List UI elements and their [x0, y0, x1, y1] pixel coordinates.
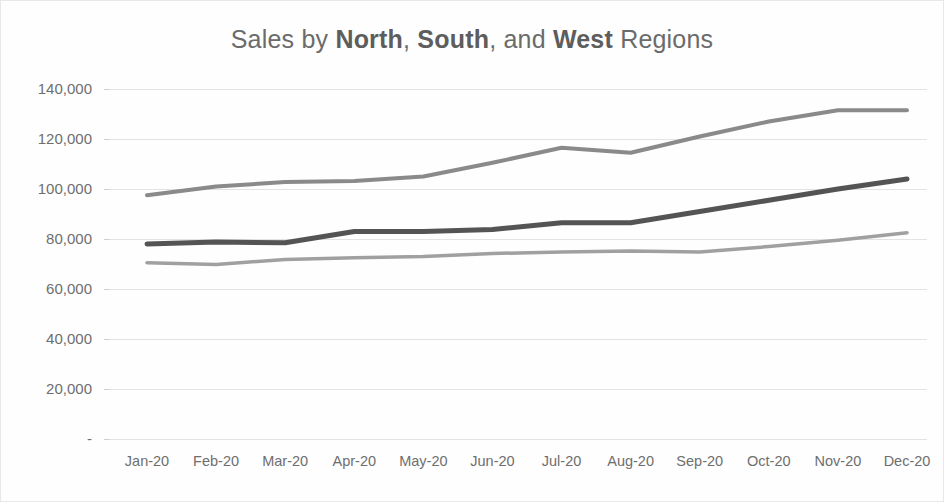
y-tick-label: 60,000	[0, 280, 92, 297]
x-tick-label: Jun-20	[470, 453, 514, 469]
plot-area	[109, 89, 927, 439]
x-tick-label: Aug-20	[607, 453, 654, 469]
title-region-name: South	[417, 25, 489, 53]
x-tick-label: Sep-20	[676, 453, 723, 469]
title-region-name: North	[335, 25, 403, 53]
gridline	[109, 439, 927, 440]
y-tick-label: 40,000	[0, 330, 92, 347]
chart-title: Sales by North, South, and West Regions	[1, 25, 943, 54]
title-region-name: West	[553, 25, 613, 53]
y-tick-label: 80,000	[0, 230, 92, 247]
x-tick-label: Apr-20	[333, 453, 377, 469]
y-tick-label: -	[0, 430, 92, 447]
x-tick-label: Mar-20	[262, 453, 308, 469]
x-tick-label: Dec-20	[884, 453, 931, 469]
y-tick-label: 140,000	[0, 80, 92, 97]
x-tick-label: Nov-20	[815, 453, 862, 469]
title-text: ,	[403, 25, 417, 53]
title-text: Sales by	[231, 25, 336, 53]
y-tick-label: 100,000	[0, 180, 92, 197]
y-tick-mark	[104, 439, 109, 440]
x-tick-label: Oct-20	[747, 453, 791, 469]
x-tick-label: Jan-20	[125, 453, 169, 469]
y-tick-label: 20,000	[0, 380, 92, 397]
title-text: Regions	[613, 25, 713, 53]
x-tick-label: Feb-20	[193, 453, 239, 469]
title-text: , and	[489, 25, 553, 53]
x-tick-label: May-20	[399, 453, 447, 469]
chart-container: Sales by North, South, and West Regions …	[0, 0, 944, 502]
y-tick-label: 120,000	[0, 130, 92, 147]
x-tick-label: Jul-20	[542, 453, 582, 469]
